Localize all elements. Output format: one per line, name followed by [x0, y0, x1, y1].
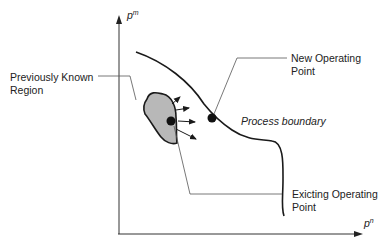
x-axis-label: pn — [363, 217, 374, 229]
arrow-right-icon — [178, 121, 195, 122]
new-operating-point-label: New Operating Point — [291, 52, 364, 77]
process-diagram: pm pn New Operating Point Previously Kno… — [0, 0, 389, 244]
previously-known-region-label: Previously Known Region — [10, 71, 96, 96]
y-axis-arrow-icon — [116, 15, 122, 24]
prev-region-leader-line — [98, 76, 136, 100]
existing-operating-point-label: Exicting Operating Point — [292, 188, 381, 213]
x-axis-arrow-icon — [354, 231, 363, 237]
arrow-down-right-icon — [176, 129, 196, 139]
new-operating-point-marker — [208, 114, 217, 123]
existing-operating-point-marker — [167, 117, 176, 126]
arrow-up-right-icon — [172, 97, 180, 104]
y-axis-label: pm — [126, 9, 139, 21]
new-point-leader-line — [214, 58, 287, 114]
process-boundary-label: Process boundary — [241, 115, 326, 127]
x-axis — [118, 231, 363, 237]
y-axis — [116, 15, 122, 234]
arrow-right-upper-icon — [176, 108, 189, 110]
